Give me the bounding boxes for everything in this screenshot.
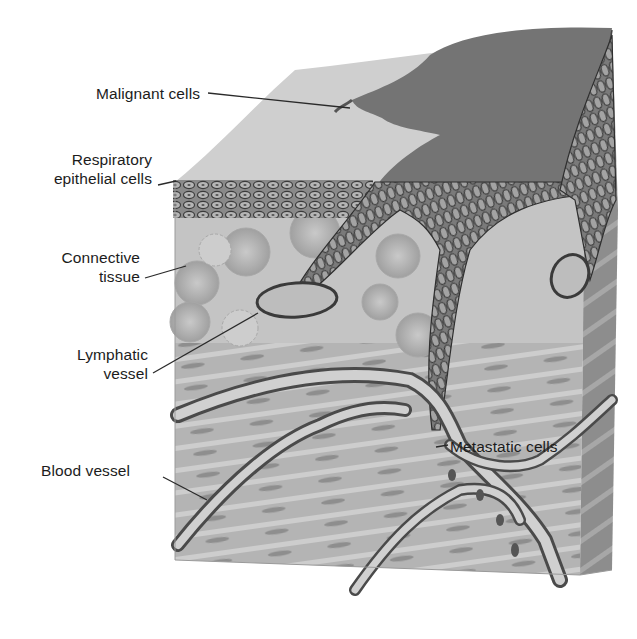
label-line: Lymphatic (40, 345, 148, 364)
tissue-diagram: Malignant cells Respiratory epithelial c… (0, 0, 637, 639)
label-line: vessel (40, 364, 148, 383)
label-metastatic-cells: Metastatic cells (450, 437, 558, 456)
label-lymphatic-vessel: Lymphatic vessel (40, 345, 148, 383)
label-respiratory-epithelial-cells: Respiratory epithelial cells (32, 150, 152, 188)
label-connective-tissue: Connective tissue (30, 248, 140, 286)
label-line: Connective (30, 248, 140, 267)
label-malignant-cells: Malignant cells (96, 84, 200, 103)
label-line: tissue (30, 267, 140, 286)
label-blood-vessel: Blood vessel (41, 461, 130, 480)
respiratory-epithelium-layer (173, 180, 373, 218)
label-line: epithelial cells (32, 169, 152, 188)
label-line: Respiratory (32, 150, 152, 169)
